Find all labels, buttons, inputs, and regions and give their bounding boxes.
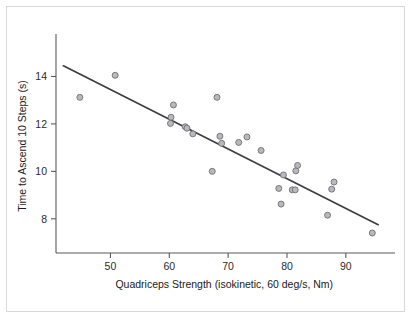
data-point xyxy=(219,140,225,146)
data-point xyxy=(331,179,337,185)
x-tick-label: 70 xyxy=(222,260,234,272)
data-point xyxy=(217,133,223,139)
y-axis-title: Time to Ascend 10 Steps (s) xyxy=(16,80,28,212)
data-point xyxy=(236,139,242,145)
ticks-group xyxy=(51,76,346,258)
y-tick-label: 8 xyxy=(41,213,47,225)
data-point xyxy=(280,172,286,178)
axis-titles-group: Quadriceps Strength (isokinetic, 60 deg/… xyxy=(16,80,333,290)
y-tick-label: 10 xyxy=(35,165,47,177)
data-point xyxy=(278,201,284,207)
x-tick-label: 60 xyxy=(163,260,175,272)
y-tick-label: 12 xyxy=(35,118,47,130)
data-points-group xyxy=(77,72,375,236)
x-tick-label: 80 xyxy=(281,260,293,272)
scatter-plot: 50607080908101214 Quadriceps Strength (i… xyxy=(0,0,411,318)
data-point xyxy=(292,187,298,193)
data-point xyxy=(170,102,176,108)
data-point xyxy=(167,120,173,126)
x-axis-title: Quadriceps Strength (isokinetic, 60 deg/… xyxy=(115,278,333,290)
data-point xyxy=(295,162,301,168)
data-point xyxy=(184,125,190,131)
data-point xyxy=(329,186,335,192)
data-point xyxy=(168,114,174,120)
data-point xyxy=(214,94,220,100)
x-tick-label: 50 xyxy=(105,260,117,272)
data-point xyxy=(244,134,250,140)
data-point xyxy=(258,147,264,153)
data-point xyxy=(77,94,83,100)
axes-group xyxy=(56,34,395,253)
y-tick-label: 14 xyxy=(35,70,47,82)
data-point xyxy=(190,131,196,137)
tick-labels-group: 50607080908101214 xyxy=(35,70,351,272)
x-tick-label: 90 xyxy=(340,260,352,272)
data-point xyxy=(276,185,282,191)
data-point xyxy=(209,168,215,174)
data-point xyxy=(112,72,118,78)
data-point xyxy=(325,212,331,218)
data-point xyxy=(369,230,375,236)
figure-container: 50607080908101214 Quadriceps Strength (i… xyxy=(0,0,411,318)
